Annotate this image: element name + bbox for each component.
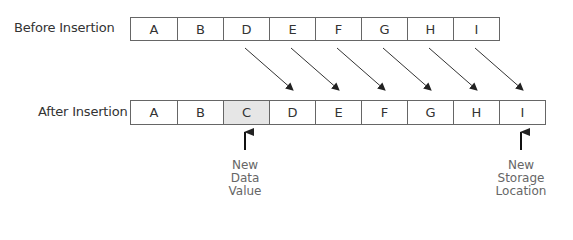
after-insertion-label: After Insertion: [38, 104, 127, 119]
new-data-value-note: New Data Value: [205, 159, 285, 198]
array-cell: B: [177, 101, 223, 124]
diagonal-arrow-icon: [245, 48, 523, 90]
inserted-cell: C: [223, 101, 269, 124]
after-array: A B C D E F G H I: [130, 100, 546, 125]
array-cell: H: [453, 101, 499, 124]
new-storage-location-note: New Storage Location: [481, 159, 561, 198]
array-cell: E: [315, 101, 361, 124]
array-cell: I: [499, 101, 545, 124]
array-cell: G: [407, 101, 453, 124]
array-cell: D: [269, 101, 315, 124]
array-cell: A: [131, 101, 177, 124]
array-cell: F: [361, 101, 407, 124]
